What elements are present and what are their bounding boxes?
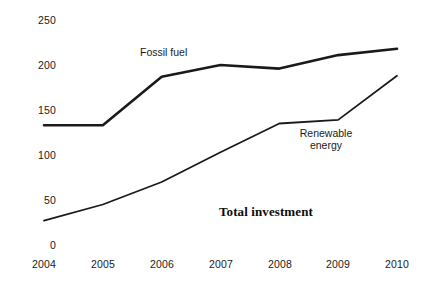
series-label-renewable-energy-line1: Renewable — [295, 128, 357, 140]
y-tick-label-50: 50 — [22, 194, 56, 206]
x-tick-label-2004: 2004 — [22, 258, 66, 270]
series-label-renewable-energy-line2: energy — [295, 140, 357, 152]
series-line-fossil-fuel — [44, 49, 397, 126]
y-tick-label-200: 200 — [22, 59, 56, 71]
series-label-renewable-energy: Renewable energy — [295, 128, 357, 151]
series-label-fossil-fuel: Fossil fuel — [140, 47, 187, 59]
y-tick-label-250: 250 — [22, 14, 56, 26]
x-tick-label-2010: 2010 — [375, 258, 419, 270]
x-tick-label-2006: 2006 — [140, 258, 184, 270]
y-tick-label-150: 150 — [22, 104, 56, 116]
x-tick-label-2005: 2005 — [81, 258, 125, 270]
chart-plot-area — [0, 0, 425, 285]
line-chart: 250 200 150 100 50 0 2004 2005 2006 2007… — [0, 0, 425, 285]
x-tick-label-2008: 2008 — [258, 258, 302, 270]
y-tick-label-0: 0 — [22, 239, 56, 251]
x-tick-label-2009: 2009 — [316, 258, 360, 270]
x-tick-label-2007: 2007 — [199, 258, 243, 270]
chart-caption-total-investment: Total investment — [219, 204, 313, 220]
y-tick-label-100: 100 — [22, 149, 56, 161]
